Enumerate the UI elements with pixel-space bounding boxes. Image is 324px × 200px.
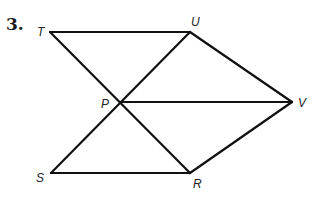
segment-VR [190,102,292,173]
label-U: U [191,15,200,29]
label-S: S [36,171,44,185]
label-V: V [298,96,307,110]
label-R: R [193,177,202,191]
segment-UV [190,32,292,102]
label-P: P [101,97,109,111]
geometry-diagram: T U P V S R [0,0,324,200]
label-T: T [37,25,46,39]
